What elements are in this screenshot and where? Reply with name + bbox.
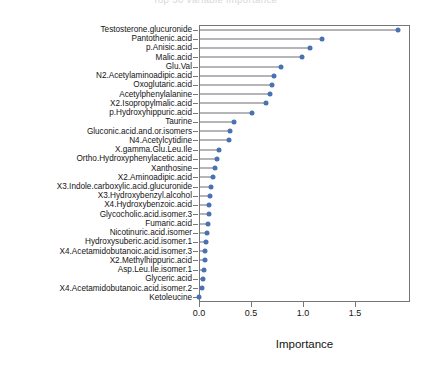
lollipop-stem: [199, 85, 272, 86]
lollipop-point: [227, 138, 232, 143]
lollipop-stem: [199, 66, 281, 67]
y-axis-tick-label: Oxoglutaric.acid: [133, 80, 192, 89]
lollipop-point: [279, 64, 284, 69]
y-axis-tick-mark: [193, 205, 198, 206]
lollipop-row: [199, 228, 410, 237]
x-axis-tick-mark: [303, 302, 304, 307]
lollipop-row: [199, 53, 410, 62]
x-axis-tick-mark: [251, 302, 252, 307]
y-axis-tick-label: Ortho.Hydroxyphenylacetic.acid: [76, 154, 192, 163]
lollipop-point: [232, 119, 237, 124]
lollipop-point: [208, 193, 213, 198]
y-axis-tick-mark: [193, 131, 198, 132]
lollipop-row: [199, 265, 410, 274]
y-axis-tick-mark: [193, 48, 198, 49]
y-axis-tick-mark: [193, 85, 198, 86]
lollipop-point: [269, 83, 274, 88]
lollipop-point: [212, 166, 217, 171]
x-axis-tick-label: 0.0: [193, 308, 206, 318]
lollipop-point: [197, 295, 202, 300]
y-axis-tick-mark: [193, 57, 198, 58]
lollipop-stem: [199, 112, 252, 113]
figure-header-clipped-text: Top 30 variable importance: [0, 0, 430, 6]
lollipop-stem: [199, 29, 398, 30]
y-axis-tick-mark: [193, 224, 198, 225]
y-axis-tick-mark: [193, 140, 198, 141]
y-axis-tick-label: Malic.acid: [156, 53, 192, 62]
lollipop-row: [199, 108, 410, 117]
y-axis-tick-mark: [193, 39, 198, 40]
lollipop-row: [199, 145, 410, 154]
y-axis-tick-label: Gluconic.acid.and.or.isomers: [87, 127, 192, 136]
y-axis-tick-label: N4.Acetylcytidine: [129, 136, 192, 145]
lollipop-point: [209, 184, 214, 189]
lollipop-point: [214, 156, 219, 161]
y-axis-tick-label: Acetylphenylalanine: [119, 90, 192, 99]
lollipop-point: [206, 221, 211, 226]
y-axis-tick-mark: [193, 159, 198, 160]
y-axis-tick-mark: [193, 67, 198, 68]
lollipop-row: [199, 62, 410, 71]
y-axis-tick-label: X4.Acetamidobutanoic.acid.isomer.2: [60, 284, 192, 293]
y-axis-tick-label: X4.Acetamidobutanoic.acid.isomer.3: [60, 247, 192, 256]
lollipop-point: [319, 36, 324, 41]
lollipop-row: [199, 80, 410, 89]
y-axis-tick-mark: [193, 214, 198, 215]
y-axis-tick-mark: [193, 233, 198, 234]
y-axis-tick-label: N2.Acetylaminoadipic.acid: [96, 71, 192, 80]
y-axis-tick-label: Hydroxysuberic.acid.isomer.1: [85, 237, 192, 246]
lollipop-stem: [199, 38, 322, 39]
y-axis-tick-label: X2.Isopropylmalic.acid: [110, 99, 192, 108]
lollipop-point: [308, 46, 313, 51]
y-axis-tick-mark: [193, 122, 198, 123]
lollipop-point: [216, 147, 221, 152]
y-axis-tick-mark: [193, 30, 198, 31]
y-axis-labels: Testosterone.glucuronidePantothenic.acid…: [0, 25, 196, 302]
lollipop-row: [199, 247, 410, 256]
y-axis-tick-label: X2.Methylhippuric.acid: [110, 256, 192, 265]
y-axis-tick-label: Xanthosine: [151, 164, 192, 173]
lollipop-point: [250, 110, 255, 115]
y-axis-tick-mark: [193, 279, 198, 280]
lollipop-stem: [199, 75, 274, 76]
y-axis-tick-mark: [193, 94, 198, 95]
lollipop-row: [199, 256, 410, 265]
y-axis-tick-mark: [193, 251, 198, 252]
lollipop-stem: [199, 94, 270, 95]
lollipop-row: [199, 173, 410, 182]
lollipop-point: [204, 239, 209, 244]
lollipop-row: [199, 127, 410, 136]
lollipop-point: [395, 27, 400, 32]
lollipop-row: [199, 191, 410, 200]
y-axis-tick-label: Glu.Val: [166, 62, 192, 71]
lollipop-stem: [199, 131, 230, 132]
lollipop-point: [203, 249, 208, 254]
lollipop-row: [199, 284, 410, 293]
y-axis-tick-label: X4.Hydroxybenzoic.acid: [104, 200, 192, 209]
y-axis-tick-mark: [193, 177, 198, 178]
y-axis-tick-label: p.Anisic.acid: [146, 43, 192, 52]
y-axis-tick-label: Nicotinuric.acid.isomer: [110, 228, 192, 237]
lollipop-point: [207, 203, 212, 208]
y-axis-tick-mark: [193, 260, 198, 261]
lollipop-point: [299, 55, 304, 60]
y-axis-tick-mark: [193, 288, 198, 289]
lollipop-point: [202, 267, 207, 272]
lollipop-row: [199, 219, 410, 228]
lollipop-row: [199, 274, 410, 283]
y-axis-tick-label: Glycocholic.acid.isomer.3: [100, 210, 192, 219]
y-axis-tick-mark: [193, 150, 198, 151]
lollipop-row: [199, 182, 410, 191]
lollipop-stem: [199, 121, 234, 122]
y-axis-tick-mark: [193, 270, 198, 271]
lollipop-row: [199, 90, 410, 99]
lollipop-row: [199, 237, 410, 246]
lollipop-row: [199, 154, 410, 163]
lollipop-row: [199, 164, 410, 173]
x-axis-tick-label: 0.5: [245, 308, 258, 318]
lollipop-stem: [199, 48, 310, 49]
lollipop-series: [199, 25, 410, 302]
y-axis-tick-label: X.gamma.Glu.Leu.Ile: [115, 145, 192, 154]
y-axis-tick-label: Taurine: [165, 117, 192, 126]
lollipop-row: [199, 71, 410, 80]
